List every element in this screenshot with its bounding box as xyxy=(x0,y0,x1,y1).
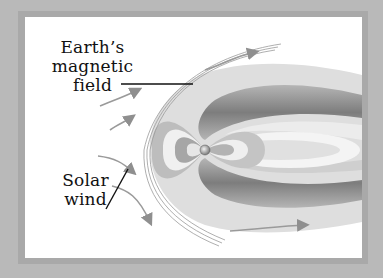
label-line: Earth’s xyxy=(45,38,140,57)
label-line: magnetic xyxy=(45,57,140,76)
label-line: wind xyxy=(58,190,113,209)
earth xyxy=(200,145,210,155)
solar-wind-label: Solar wind xyxy=(58,171,113,209)
label-line: field xyxy=(45,76,140,95)
magnetic-field-label: Earth’s magnetic field xyxy=(45,38,140,95)
label-line: Solar xyxy=(58,171,113,190)
